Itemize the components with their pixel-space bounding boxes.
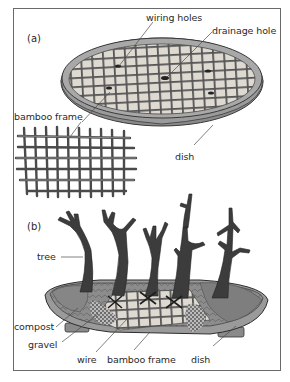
label-dish-a: dish [175,152,194,162]
tree-1 [58,211,93,292]
label-dish-b: dish [191,355,210,365]
trees [58,194,250,298]
label-wire: wire [77,355,97,365]
label-compost: compost [14,322,54,332]
label-tree: tree [37,252,56,262]
label-bamboo-frame-a: bamboo frame [14,112,83,122]
dish-a [61,38,263,126]
label-bamboo-frame-b: bamboo frame [107,355,176,365]
label-drainage-hole: drainage hole [212,26,276,36]
panel-label-b: (b) [27,222,41,232]
label-wiring-holes: wiring holes [146,13,202,23]
label-gravel: gravel [28,340,57,350]
panel-label-a: (a) [27,34,41,44]
